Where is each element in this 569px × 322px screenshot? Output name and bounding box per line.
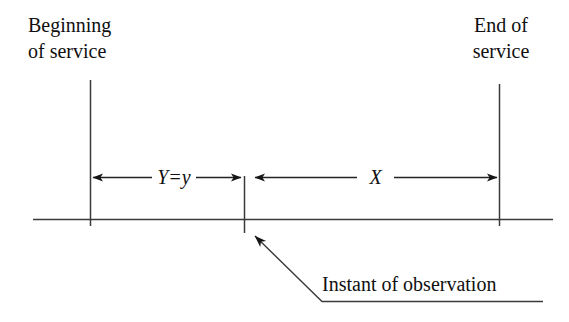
end-of-service-label-line1: End of — [474, 14, 528, 36]
y-interval-label: Y=y — [157, 166, 191, 189]
x-interval-label: X — [368, 166, 382, 188]
end-of-service-label-line2: service — [473, 40, 530, 62]
diagram-canvas: Beginning of service End of service Y=y … — [0, 0, 569, 322]
instant-of-observation-label: Instant of observation — [322, 273, 496, 295]
service-interval-diagram: Beginning of service End of service Y=y … — [0, 0, 569, 322]
beginning-of-service-label-line2: of service — [28, 40, 106, 62]
beginning-of-service-label-line1: Beginning — [28, 14, 111, 37]
